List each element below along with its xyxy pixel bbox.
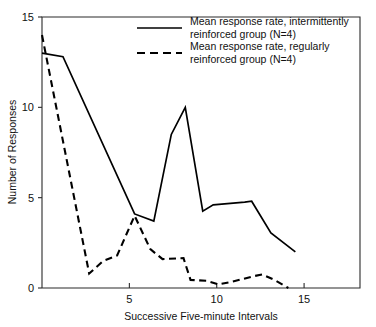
y-tick-label: 0 xyxy=(28,282,34,294)
legend-entry-0-line2: reinforced group (N=4) xyxy=(190,28,296,40)
x-tick-label: 5 xyxy=(126,293,132,305)
x-tick-label: 15 xyxy=(298,293,310,305)
response-rate-line-chart: 051015 51015 Successive Five-minute Inte… xyxy=(0,0,376,327)
legend-entry-1-line2: reinforced group (N=4) xyxy=(190,53,296,65)
y-tick-label: 10 xyxy=(22,101,34,113)
x-axis-title: Successive Five-minute Intervals xyxy=(124,310,277,322)
legend-entry-1-line1: Mean response rate, regularly xyxy=(190,40,330,52)
y-tick-label: 5 xyxy=(28,192,34,204)
chart-container: 051015 51015 Successive Five-minute Inte… xyxy=(0,0,376,327)
y-tick-label: 15 xyxy=(22,11,34,23)
y-axis-title: Number of Responses xyxy=(6,100,18,204)
legend-entry-0-line1: Mean response rate, intermittently xyxy=(190,15,349,27)
x-tick-label: 10 xyxy=(211,293,223,305)
